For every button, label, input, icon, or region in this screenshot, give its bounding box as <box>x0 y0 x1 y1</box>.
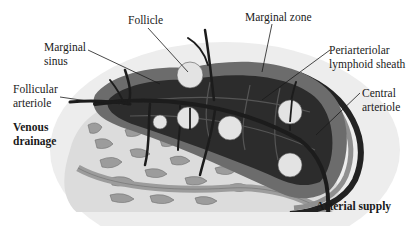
label-arterial-supply: Arterial supply <box>316 199 391 213</box>
label-follicular-arteriole: Follicular arteriole <box>13 82 58 110</box>
label-follicle: Follicle <box>128 13 163 27</box>
spleen-diagram <box>0 0 415 226</box>
label-marginal-sinus: Marginal sinus <box>44 40 86 68</box>
label-pals: Periarteriolar lymphoid sheath <box>329 43 405 71</box>
label-venous-drainage: Venous drainage <box>13 120 56 148</box>
label-central-arteriole: Central arteriole <box>362 86 400 114</box>
label-marginal-zone: Marginal zone <box>245 10 312 24</box>
